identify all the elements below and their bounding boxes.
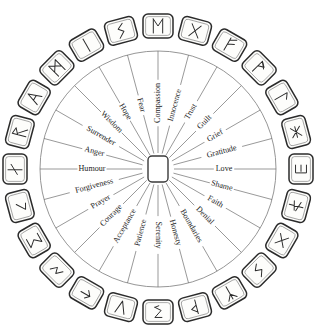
- rune-tile-frame: [143, 300, 173, 324]
- rune-tile-fear: [103, 15, 138, 46]
- spoke-label-love: Love: [216, 164, 233, 173]
- rune-tile-love: [289, 154, 313, 184]
- rune-tile-shame: [281, 188, 312, 223]
- spoke-label-honesty: Honesty: [168, 218, 184, 247]
- rune-tile-grief: [264, 79, 300, 117]
- rune-tile-innocence: [177, 15, 212, 46]
- spoke-label-patience: Patience: [132, 218, 148, 247]
- emotion-rune-wheel: LoveGratitudeGriefGuiltTrustInnocenceCom…: [0, 0, 315, 335]
- rune-tile-hope: [68, 27, 106, 63]
- rune-tile-honesty: [177, 292, 212, 323]
- rune-tile-prayer: [16, 222, 52, 260]
- spoke-label-gratitude: Gratitude: [206, 143, 238, 160]
- rune-tile-patience: [103, 292, 138, 323]
- rune-tile-frame: [211, 27, 249, 63]
- rune-tile-frame: [264, 79, 300, 117]
- rune-tile-denial: [240, 251, 278, 289]
- rune-tile-frame: [3, 154, 27, 184]
- rune-tile-frame: [16, 79, 52, 117]
- rune-tile-humour: [3, 154, 27, 184]
- rune-tile-surrender: [16, 79, 52, 117]
- spoke-label-forgiveness: Forgiveness: [74, 176, 114, 195]
- spoke-label-humour: Humour: [79, 164, 106, 173]
- center-hub: [148, 156, 168, 182]
- rune-tile-forgiveness: [4, 188, 35, 223]
- rune-tile-acceptance: [68, 275, 106, 311]
- rune-tile-frame: [103, 292, 138, 323]
- rune-tile-guilt: [240, 49, 278, 87]
- rune-tile-serenity: [143, 300, 173, 324]
- rune-tile-frame: [16, 222, 52, 260]
- spoke-label-innocence: Innocence: [166, 87, 183, 122]
- rune-tile-trust: [211, 27, 249, 63]
- rune-tile-wisdom: [38, 49, 76, 87]
- rune-tile-faith: [264, 222, 300, 260]
- spoke-label-prayer: Prayer: [89, 192, 112, 211]
- spoke-label-compassion: Compassion: [153, 83, 162, 123]
- rune-tile-anger: [4, 114, 35, 149]
- rune-tile-gratitude: [281, 114, 312, 149]
- spoke-label-fear: Fear: [135, 97, 147, 114]
- wheel-canvas: LoveGratitudeGriefGuiltTrustInnocenceCom…: [0, 0, 315, 335]
- rune-tile-compassion: [143, 14, 173, 38]
- hub-layer: [148, 156, 168, 182]
- rune-tile-frame: [68, 275, 106, 311]
- rune-tile-frame: [177, 292, 212, 323]
- rune-tile-courage: [38, 251, 76, 289]
- rune-tile-boundaries: [211, 275, 249, 311]
- rune-tile-frame: [103, 15, 138, 46]
- spoke-label-serenity: Serenity: [154, 222, 163, 250]
